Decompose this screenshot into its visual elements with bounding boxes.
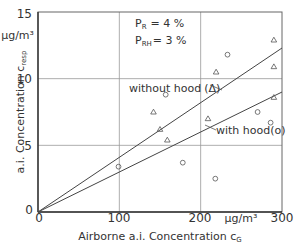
x-tick-100: 100 — [108, 211, 131, 225]
circle-marker — [180, 160, 185, 165]
y-tick-0: 0 — [25, 203, 33, 217]
scatter-chart: 15 10 5 0 0 100 200 300 µg/m³ µg/m³ Airb… — [0, 0, 298, 245]
x-axis-label: Airborne a.i. Concentration cG — [78, 230, 241, 244]
series-label-with-hood: with hood(o) — [216, 124, 286, 137]
x-tick-300: 300 — [271, 211, 294, 225]
fit-line-with-hood — [38, 92, 282, 212]
circle-marker — [116, 164, 121, 169]
triangle-marker — [271, 64, 277, 69]
triangle-marker — [165, 137, 171, 142]
annotation-pr: PR= 4 % — [135, 17, 184, 31]
triangle-marker — [213, 69, 219, 74]
x-unit: µg/m³ — [225, 212, 258, 225]
y-axis-label: a.i. Concentration cresp — [14, 50, 28, 173]
x-tick-200: 200 — [189, 211, 212, 225]
series-label-without-hood: without hood(Δ) — [129, 82, 220, 95]
triangle-marker — [205, 116, 211, 121]
triangle-marker — [271, 37, 277, 42]
y-tick-15: 15 — [17, 7, 32, 21]
circle-marker — [213, 176, 218, 181]
x-tick-0: 0 — [35, 211, 43, 225]
annotation-prh: PRH= 3 % — [135, 34, 186, 48]
circle-marker — [225, 52, 230, 57]
triangle-marker — [151, 109, 157, 114]
data-points — [116, 37, 277, 181]
y-unit: µg/m³ — [1, 29, 34, 42]
circle-marker — [255, 110, 260, 115]
